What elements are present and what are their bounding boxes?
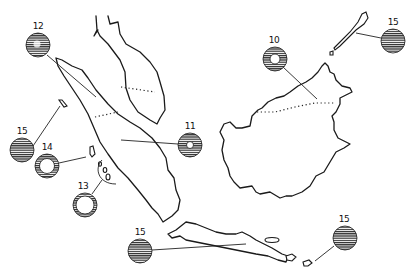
marker-label-15c: 15	[135, 227, 145, 237]
marker-label-15d: 15	[339, 214, 349, 224]
leader-15a	[33, 106, 60, 146]
lombok-island	[303, 260, 312, 266]
marker-label-15b: 15	[388, 17, 398, 27]
mentawai-island-2	[103, 168, 107, 173]
leader-13	[92, 180, 102, 194]
leader-15d	[315, 246, 334, 261]
malay-peninsula-coast	[94, 16, 165, 124]
marker-label-10: 10	[269, 35, 279, 45]
leader-11	[121, 140, 178, 144]
marker-15d-hatched-circle-icon[interactable]	[333, 226, 357, 250]
leader-12	[47, 55, 96, 97]
marker-15a-hatched-circle-icon[interactable]	[10, 138, 34, 162]
balabac-island	[330, 51, 333, 55]
marker-14-hatched-ring-icon[interactable]	[35, 154, 59, 178]
sumatra-coast	[56, 58, 180, 222]
nias-island	[90, 146, 95, 157]
map-canvas	[0, 0, 416, 275]
border-sumatra-north	[95, 112, 118, 117]
madura-island	[265, 238, 279, 243]
marker-13-hatched-ring-icon[interactable]	[73, 193, 97, 217]
marker-label-15a: 15	[17, 126, 27, 136]
marker-12-hatched-circle-icon[interactable]	[26, 33, 50, 57]
marker-15b-hatched-circle-icon[interactable]	[381, 29, 405, 53]
marker-10-hatched-ring-icon[interactable]	[263, 47, 287, 71]
leader-14	[59, 157, 86, 163]
marker-label-11: 11	[185, 121, 195, 131]
bali-island	[286, 254, 296, 261]
marker-label-12: 12	[33, 21, 43, 31]
palawan-island	[334, 12, 368, 50]
border-borneo	[257, 103, 334, 112]
marker-label-14: 14	[42, 142, 52, 152]
marker-11-hatched-ring-icon[interactable]	[178, 133, 202, 157]
leader-15b	[356, 33, 381, 38]
simeulue-island	[59, 100, 67, 107]
borneo-coast	[220, 63, 352, 198]
marker-label-13: 13	[78, 181, 88, 191]
marker-15c-hatched-circle-icon[interactable]	[128, 239, 152, 263]
mentawai-island-3	[106, 174, 110, 180]
leader-10	[283, 67, 317, 99]
